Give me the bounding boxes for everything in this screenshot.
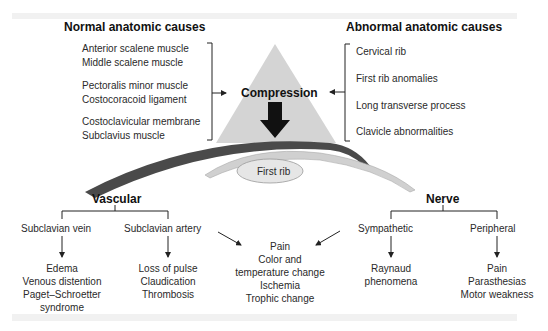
normal-cause-item: Pectoralis minor muscle xyxy=(82,79,188,92)
normal-causes-bracket xyxy=(207,43,212,140)
symptom: Color and xyxy=(225,253,335,266)
sympathetic-effect: phenomena xyxy=(351,275,431,288)
symptom: Trophic change xyxy=(225,292,335,305)
vein-effect: Venous distention xyxy=(12,275,112,288)
vein-effect: syndrome xyxy=(12,301,112,314)
sympathetic-effect: Raynaud xyxy=(351,262,431,275)
subclavian-vein-label: Subclavian vein xyxy=(21,222,91,235)
artery-effect: Claudication xyxy=(128,275,208,288)
sympathetic-effects: Raynaud phenomena xyxy=(351,262,431,288)
artery-effect: Loss of pulse xyxy=(128,262,208,275)
normal-cause-item: Middle scalene muscle xyxy=(82,56,183,69)
vascular-bracket xyxy=(62,211,168,219)
compression-label: Compression xyxy=(241,86,318,100)
symptom: Pain xyxy=(225,240,335,253)
sympathetic-label: Sympathetic xyxy=(358,222,413,235)
tos-diagram: Normal anatomic causes Anterior scalene … xyxy=(0,0,548,331)
symptom: Ischemia xyxy=(225,279,335,292)
peripheral-effect: Motor weakness xyxy=(452,288,542,301)
nerve-title: Nerve xyxy=(426,192,459,206)
vein-effect: Edema xyxy=(12,262,112,275)
first-rib-label: First rib xyxy=(257,165,290,178)
vein-effect: Paget–Schroetter xyxy=(12,288,112,301)
abnormal-cause-item: Cervical rib xyxy=(356,45,406,58)
vascular-title: Vascular xyxy=(92,192,141,206)
symptom: temperature change xyxy=(225,266,335,279)
abnormal-cause-item: Long transverse process xyxy=(356,99,466,112)
shared-symptoms: Pain Color and temperature change Ischem… xyxy=(225,240,335,305)
subclavian-artery-label: Subclavian artery xyxy=(124,222,201,235)
artery-effects: Loss of pulse Claudication Thrombosis xyxy=(128,262,208,301)
abnormal-causes-title: Abnormal anatomic causes xyxy=(346,20,502,34)
normal-cause-item: Costocoracoid ligament xyxy=(82,93,187,106)
normal-cause-item: Anterior scalene muscle xyxy=(82,42,189,55)
rib-arc-shape xyxy=(205,151,415,192)
abnormal-cause-item: Clavicle abnormalities xyxy=(356,125,453,138)
abnormal-cause-item: First rib anomalies xyxy=(356,72,438,85)
normal-cause-item: Subclavius muscle xyxy=(82,129,165,142)
vein-effects: Edema Venous distention Paget–Schroetter… xyxy=(12,262,112,314)
normal-cause-item: Costoclavicular membrane xyxy=(82,115,200,128)
nerve-bracket xyxy=(391,211,497,219)
peripheral-effect: Pain xyxy=(452,262,542,275)
artery-effect: Thrombosis xyxy=(128,288,208,301)
abnormal-causes-bracket xyxy=(345,44,350,141)
peripheral-effects: Pain Parasthesias Motor weakness xyxy=(452,262,542,301)
normal-causes-title: Normal anatomic causes xyxy=(64,20,205,34)
peripheral-effect: Parasthesias xyxy=(452,275,542,288)
peripheral-label: Peripheral xyxy=(470,222,516,235)
